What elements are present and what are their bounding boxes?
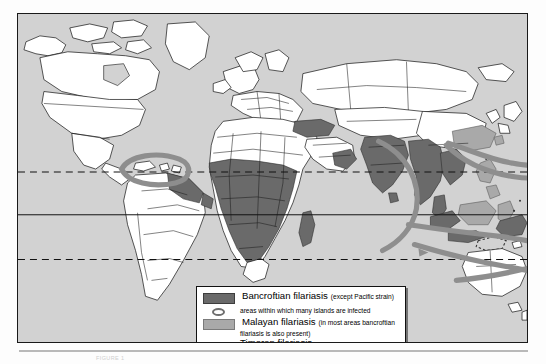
map-legend: Bancroftian filariasis (except Pacific s… <box>196 286 406 343</box>
legend-item-bancroftian: Bancroftian filariasis (except Pacific s… <box>203 291 400 304</box>
legend-label-islands: areas within which many islands are infe… <box>240 307 370 314</box>
legend-item-malayan: Malayan filariasis (in most areas bancro… <box>203 317 400 330</box>
legend-note-bancroftian: (except Pacific strain) <box>331 294 394 301</box>
legend-label-bancroftian: Bancroftian filariasis <box>242 291 328 301</box>
legend-swatch-bancroftian-icon <box>203 293 235 304</box>
legend-swatch-malayan-icon <box>203 319 235 330</box>
legend-item-timoran: Timoran filariasis <box>203 338 400 343</box>
world-map-frame: .land{fill:#ffffff;stroke:#111111;stroke… <box>17 13 528 343</box>
legend-swatch-timoran-icon <box>203 339 233 343</box>
map-page: .land{fill:#ffffff;stroke:#111111;stroke… <box>0 0 546 364</box>
legend-label-timoran: Timoran filariasis <box>240 338 312 343</box>
legend-note-malayan: (in most areas bancroftian <box>319 320 395 327</box>
legend-swatch-islands-oval-icon <box>203 307 233 316</box>
legend-note-malayan-continued: filariasis is also present) <box>203 330 400 337</box>
legend-label-malayan: Malayan filariasis <box>242 317 316 327</box>
caption-divider <box>19 350 528 352</box>
legend-item-islands: areas within which many islands are infe… <box>203 305 400 316</box>
figure-caption: FIGURE 1 <box>96 355 125 361</box>
